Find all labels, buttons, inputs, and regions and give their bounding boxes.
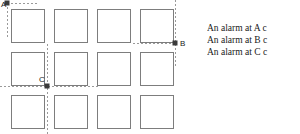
grid-cell-r2-c2 <box>55 53 88 86</box>
node-label-b: B <box>180 39 185 48</box>
grid-cell-r2-c4 <box>141 53 174 86</box>
grid-cell-r1-c2 <box>55 10 88 43</box>
grid-cell-r3-c1 <box>12 96 45 129</box>
node-label-a: A <box>1 0 7 9</box>
grid-diagram-panel: ABC <box>0 0 200 134</box>
node-label-c: C <box>39 75 45 84</box>
grid-cell-r1-c4 <box>141 10 174 43</box>
caption-text-panel: An alarm at A c An alarm at B c An alarm… <box>207 0 300 134</box>
grid-cell-r1-c1 <box>12 10 45 43</box>
caption-line-c: An alarm at C c <box>207 46 267 58</box>
node-dot-b[interactable] <box>173 41 178 46</box>
node-dot-c[interactable] <box>45 84 50 89</box>
grid-cells-layer <box>12 10 174 129</box>
grid-diagram-svg: ABC <box>0 0 200 134</box>
grid-cell-r2-c3 <box>98 53 131 86</box>
caption-line-b: An alarm at B c <box>207 34 267 46</box>
caption-line-a: An alarm at A c <box>207 22 267 34</box>
grid-cell-r3-c4 <box>141 96 174 129</box>
grid-cell-r3-c2 <box>55 96 88 129</box>
screenshot-root: ABC An alarm at A c An alarm at B c An a… <box>0 0 300 134</box>
grid-cell-r3-c3 <box>98 96 131 129</box>
grid-cell-r1-c3 <box>98 10 131 43</box>
